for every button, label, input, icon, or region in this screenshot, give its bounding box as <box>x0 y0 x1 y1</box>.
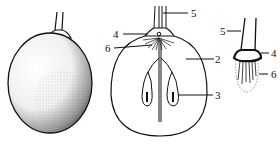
botanical-figure: 5 4 6 2 3 5 4 6 <box>0 0 280 148</box>
detail-fibers <box>238 61 256 84</box>
section-stalk <box>154 6 166 28</box>
detail-label-6: 6 <box>271 68 277 80</box>
panel-longitudinal-section: 5 4 6 2 3 <box>105 6 221 136</box>
section-axis <box>159 40 161 122</box>
leader-6 <box>114 45 152 48</box>
label-6: 6 <box>105 42 111 54</box>
section-node <box>157 32 161 36</box>
panel-stalk-detail: 5 4 6 <box>220 18 277 92</box>
fruit-stipple <box>34 70 90 130</box>
detail-stalk <box>241 18 256 50</box>
label-5: 5 <box>191 7 197 19</box>
label-4: 4 <box>113 28 119 40</box>
label-3: 3 <box>215 89 221 101</box>
detail-label-5: 5 <box>220 25 226 37</box>
section-branches <box>148 58 172 72</box>
detail-label-4: 4 <box>271 47 277 59</box>
label-2: 2 <box>215 53 221 65</box>
detail-ring <box>234 50 261 61</box>
stalk <box>55 12 63 30</box>
panel-external-view <box>8 12 92 133</box>
